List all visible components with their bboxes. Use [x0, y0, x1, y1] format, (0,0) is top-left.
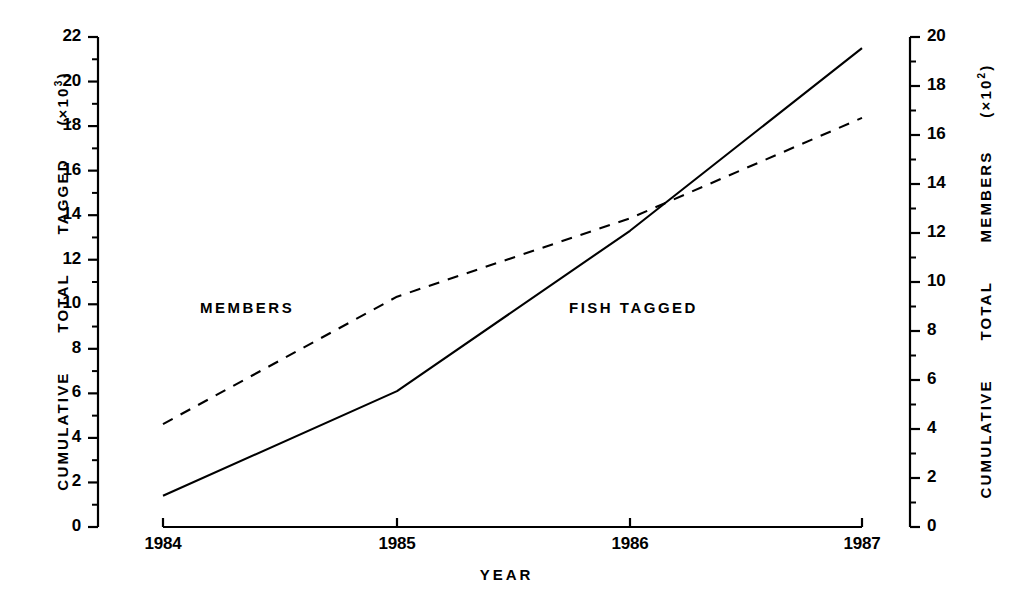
x-tick-1987: 1987 [822, 534, 902, 554]
y-tick-right-10: 10 [927, 271, 967, 291]
y-tick-left-0: 0 [41, 516, 81, 536]
series-path-members [163, 118, 862, 424]
chart-canvas: CUMULATIVE TOTAL TAGGED (×103) CUMULATIV… [0, 0, 1013, 602]
y-axis-right-title-c: MEMBERS [977, 150, 994, 242]
series-label-members: MEMBERS [200, 299, 294, 316]
y-tick-right-0: 0 [927, 516, 967, 536]
y-tick-right-6: 6 [927, 369, 967, 389]
y-axis-left-title: CUMULATIVE TOTAL TAGGED (×103) [53, 36, 71, 526]
x-tick-1986: 1986 [590, 534, 670, 554]
series-path-fish-tagged [163, 48, 862, 496]
x-axis-title: YEAR [0, 566, 1013, 583]
y-tick-left-16: 16 [41, 160, 81, 180]
y-axis-right-title-paren: ) [977, 63, 994, 70]
y-tick-right-12: 12 [927, 222, 967, 242]
y-axis-right [910, 37, 920, 527]
y-tick-left-10: 10 [41, 293, 81, 313]
x-axis [163, 518, 862, 527]
series-label-fish-tagged: FISH TAGGED [569, 299, 698, 316]
y-tick-right-14: 14 [927, 173, 967, 193]
y-tick-right-4: 4 [927, 418, 967, 438]
y-axis-right-title-unit: (×10 [977, 78, 994, 117]
y-tick-left-14: 14 [41, 204, 81, 224]
y-tick-right-20: 20 [927, 26, 967, 46]
data-series-group [163, 48, 862, 496]
y-tick-left-2: 2 [41, 471, 81, 491]
y-axis-left [88, 37, 98, 527]
x-tick-1985: 1985 [357, 534, 437, 554]
y-tick-left-4: 4 [41, 427, 81, 447]
y-tick-left-12: 12 [41, 249, 81, 269]
y-tick-left-6: 6 [41, 382, 81, 402]
y-tick-right-8: 8 [927, 320, 967, 340]
y-axis-right-title: CUMULATIVE TOTAL MEMBERS (×102) [976, 36, 994, 526]
y-axis-right-title-exponent: 2 [976, 71, 987, 79]
y-axis-right-title-b: TOTAL [977, 281, 994, 340]
y-tick-right-16: 16 [927, 124, 967, 144]
chart-plot-svg [0, 0, 1013, 602]
y-axis-right-title-a: CUMULATIVE [977, 379, 994, 498]
y-tick-left-18: 18 [41, 115, 81, 135]
y-tick-right-2: 2 [927, 467, 967, 487]
y-tick-left-22: 22 [41, 26, 81, 46]
y-tick-left-20: 20 [41, 71, 81, 91]
y-tick-right-18: 18 [927, 75, 967, 95]
x-tick-1984: 1984 [123, 534, 203, 554]
y-tick-left-8: 8 [41, 338, 81, 358]
